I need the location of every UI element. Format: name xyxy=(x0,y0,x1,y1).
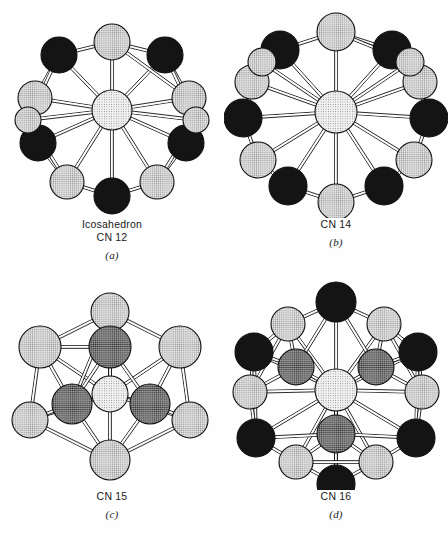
atom-layer xyxy=(224,13,448,218)
vertex-atom-medium xyxy=(89,326,131,368)
vertex-atom-medium xyxy=(130,384,170,424)
vertex-atom-light xyxy=(396,48,424,76)
vertex-atom-light xyxy=(279,445,313,479)
panel-caption-b: CN 14 (b) xyxy=(321,218,352,250)
vertex-atom-dark xyxy=(365,167,403,205)
vertex-atom-light xyxy=(248,48,276,76)
panel-b-cn: CN 14 xyxy=(321,218,352,231)
vertex-atom-light xyxy=(318,184,354,218)
polyhedron-svg-c xyxy=(0,272,224,490)
vertex-atom-light xyxy=(271,307,305,341)
panel-caption-a: Icosahedron CN 12 (a) xyxy=(82,218,142,263)
vertex-atom-medium xyxy=(278,349,314,385)
vertex-atom-light xyxy=(91,293,129,331)
vertex-atom-dark xyxy=(316,282,356,322)
panel-caption-d: CN 16 (d) xyxy=(321,490,352,522)
polyhedron-diagram-c xyxy=(0,272,224,490)
vertex-atom-light xyxy=(172,402,208,438)
vertex-atom-light xyxy=(367,307,401,341)
polyhedron-svg-d xyxy=(224,272,448,490)
vertex-atom-light xyxy=(317,13,355,51)
center-atom xyxy=(92,90,132,130)
panel-d-cn: CN 16 xyxy=(321,490,352,503)
vertex-atom-dark xyxy=(147,37,183,73)
vertex-atom-light xyxy=(159,326,201,368)
vertex-atom-light xyxy=(19,326,61,368)
vertex-atom-light xyxy=(94,24,130,60)
vertex-atom-dark xyxy=(237,419,275,457)
panel-a: Icosahedron CN 12 (a) xyxy=(0,0,224,272)
panel-c-letter: (c) xyxy=(97,508,128,522)
atom-layer xyxy=(12,293,208,480)
center-atom xyxy=(315,91,357,133)
vertex-atom-dark xyxy=(399,333,437,371)
vertex-atom-light xyxy=(233,375,267,409)
panel-d-letter: (d) xyxy=(321,508,352,522)
vertex-atom-medium xyxy=(358,349,394,385)
vertex-atom-light xyxy=(50,165,84,199)
polyhedron-svg-a xyxy=(0,0,224,218)
panel-a-cn: CN 12 xyxy=(82,231,142,244)
panel-a-letter: (a) xyxy=(82,249,142,263)
polyhedron-diagram-b xyxy=(224,0,448,218)
vertex-atom-light xyxy=(90,440,130,480)
vertex-atom-dark xyxy=(317,465,355,490)
vertex-atom-light xyxy=(12,402,48,438)
polyhedron-diagram-d xyxy=(224,272,448,490)
vertex-atom-dark xyxy=(41,37,77,73)
polyhedron-diagram-a xyxy=(0,0,224,218)
vertex-atom-medium xyxy=(317,415,355,453)
center-atom xyxy=(315,369,357,411)
polyhedron-svg-b xyxy=(224,0,448,218)
vertex-atom-dark xyxy=(94,178,130,214)
panel-a-name: Icosahedron xyxy=(82,218,142,231)
panel-c-cn: CN 15 xyxy=(97,490,128,503)
vertex-atom-dark xyxy=(235,333,273,371)
panel-b-letter: (b) xyxy=(321,236,352,250)
panel-caption-c: CN 15 (c) xyxy=(97,490,128,522)
vertex-atom-light xyxy=(183,107,209,133)
vertex-atom-dark xyxy=(269,167,307,205)
vertex-atom-medium xyxy=(52,384,92,424)
panel-c: CN 15 (c) xyxy=(0,272,224,544)
vertex-atom-light xyxy=(15,107,41,133)
vertex-atom-dark xyxy=(397,419,435,457)
vertex-atom-light xyxy=(405,375,439,409)
panel-d: CN 16 (d) xyxy=(224,272,448,544)
coordination-polyhedra-figure: Icosahedron CN 12 (a) CN 14 (b) CN 15 (c… xyxy=(0,0,448,544)
vertex-atom-light xyxy=(240,142,276,178)
vertex-atom-light xyxy=(359,445,393,479)
panel-b: CN 14 (b) xyxy=(224,0,448,272)
vertex-atom-dark xyxy=(410,99,448,137)
vertex-atom-light xyxy=(140,165,174,199)
center-atom xyxy=(92,376,128,412)
vertex-atom-light xyxy=(396,142,432,178)
vertex-atom-dark xyxy=(224,99,262,137)
